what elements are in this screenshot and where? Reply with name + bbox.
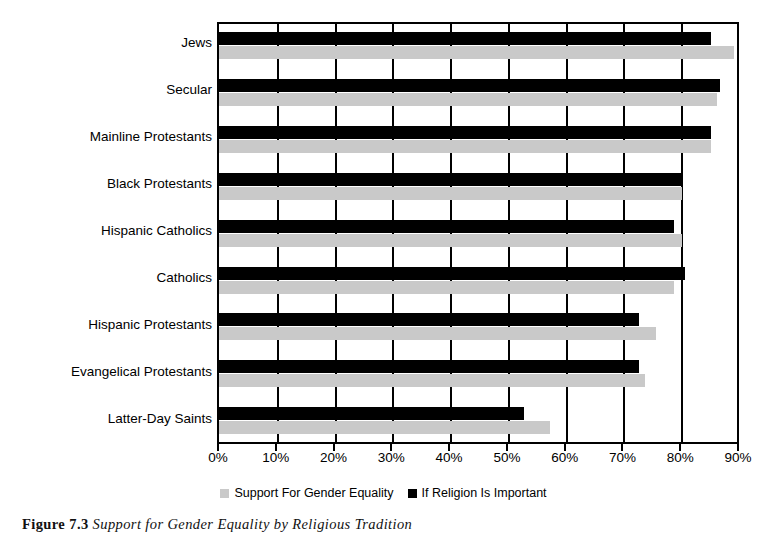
legend-label-0: Support For Gender Equality	[234, 486, 393, 500]
bar-group-mainline-protestants	[219, 118, 737, 165]
bar-light-7[interactable]	[219, 374, 645, 387]
bar-group-secular	[219, 71, 737, 118]
x-axis-label-1: 10%	[246, 450, 306, 466]
bar-light-1[interactable]	[219, 93, 717, 106]
bar-light-2[interactable]	[219, 140, 711, 153]
plot-area	[217, 22, 739, 444]
chart-legend: Support For Gender Equality If Religion …	[0, 484, 767, 502]
x-axis-label-2: 20%	[304, 450, 364, 466]
legend-swatch-icon-black	[408, 489, 417, 498]
y-axis-label-3: Black Protestants	[2, 177, 212, 191]
bar-dark-3[interactable]	[219, 173, 682, 186]
figure-container: Jews Secular Mainline Protestants Black …	[0, 0, 767, 533]
y-axis-label-8: Latter-Day Saints	[2, 412, 212, 426]
bar-light-5[interactable]	[219, 281, 674, 294]
x-axis-label-6: 60%	[535, 450, 595, 466]
bar-group-catholics	[219, 259, 737, 306]
figure-caption-number: Figure 7.3	[22, 516, 89, 532]
x-axis-label-9: 90%	[708, 450, 767, 466]
bar-light-8[interactable]	[219, 421, 550, 434]
bar-dark-0[interactable]	[219, 32, 711, 45]
figure-caption-text: Support for Gender Equality by Religious…	[93, 516, 413, 532]
bar-group-jews	[219, 24, 737, 71]
x-axis-label-5: 50%	[477, 450, 537, 466]
y-axis-label-6: Hispanic Protestants	[2, 318, 212, 332]
y-axis-label-1: Secular	[2, 83, 212, 97]
bar-group-evangelical-protestants	[219, 352, 737, 399]
legend-swatch-icon-gray	[220, 489, 229, 498]
bar-dark-1[interactable]	[219, 79, 720, 92]
y-axis-labels: Jews Secular Mainline Protestants Black …	[0, 22, 212, 444]
bar-light-6[interactable]	[219, 327, 656, 340]
x-axis-label-7: 70%	[592, 450, 652, 466]
legend-item-support-for-gender-equality[interactable]: Support For Gender Equality	[220, 486, 393, 500]
y-axis-label-5: Catholics	[2, 271, 212, 285]
y-axis-label-7: Evangelical Protestants	[2, 365, 212, 379]
y-axis-label-0: Jews	[2, 36, 212, 50]
x-axis-label-3: 30%	[361, 450, 421, 466]
bar-group-latter-day-saints	[219, 399, 737, 446]
bar-group-hispanic-catholics	[219, 212, 737, 259]
bar-dark-5[interactable]	[219, 267, 685, 280]
bar-dark-8[interactable]	[219, 407, 524, 420]
bar-light-4[interactable]	[219, 234, 682, 247]
x-axis-label-4: 40%	[419, 450, 479, 466]
bar-light-3[interactable]	[219, 187, 682, 200]
bar-group-black-protestants	[219, 165, 737, 212]
x-axis-label-0: 0%	[188, 450, 248, 466]
figure-caption: Figure 7.3 Support for Gender Equality b…	[22, 516, 742, 533]
bar-dark-2[interactable]	[219, 126, 711, 139]
bar-dark-7[interactable]	[219, 360, 639, 373]
bar-group-hispanic-protestants	[219, 305, 737, 352]
x-axis-label-8: 80%	[650, 450, 710, 466]
y-axis-label-4: Hispanic Catholics	[2, 224, 212, 238]
y-axis-label-2: Mainline Protestants	[2, 130, 212, 144]
bar-dark-6[interactable]	[219, 313, 639, 326]
legend-label-1: If Religion Is Important	[422, 486, 547, 500]
legend-item-if-religion-is-important[interactable]: If Religion Is Important	[408, 486, 547, 500]
bar-dark-4[interactable]	[219, 220, 674, 233]
x-axis-labels: 0% 10% 20% 30% 40% 50% 60% 70% 80% 90%	[0, 450, 767, 470]
bar-light-0[interactable]	[219, 46, 734, 59]
